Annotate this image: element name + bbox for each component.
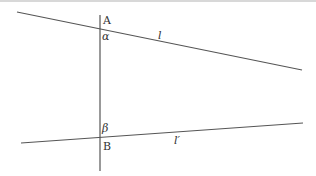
label-point-b: B bbox=[103, 140, 111, 153]
label-angle-alpha: α bbox=[102, 30, 110, 43]
label-line-l-prime: l′ bbox=[174, 134, 181, 147]
label-line-l: l bbox=[158, 29, 162, 42]
label-angle-beta: β bbox=[101, 122, 108, 135]
parallel-lines-diagram: A α l β B l′ bbox=[0, 0, 316, 176]
line-l-prime bbox=[21, 123, 303, 143]
label-point-a: A bbox=[102, 14, 112, 27]
